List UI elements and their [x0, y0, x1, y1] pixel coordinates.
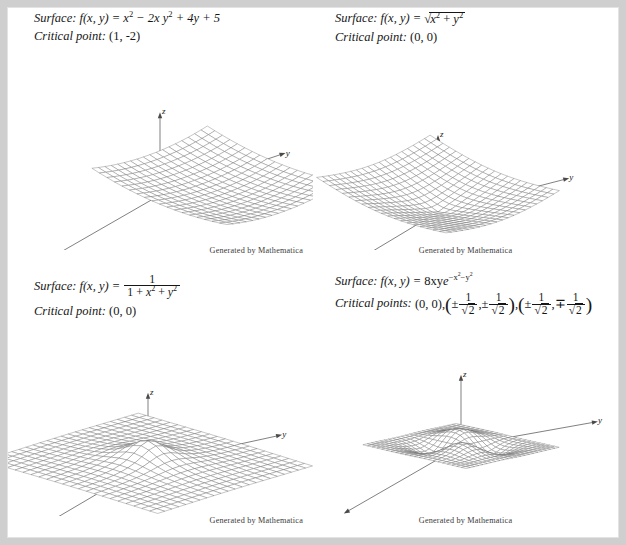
page-sheet: Surface: f(x, y) = x2 − 2x y2 + 4y + 5 C…: [8, 8, 618, 537]
critical-origin: (0, 0),: [415, 297, 445, 311]
term-plus4y: + 4y: [176, 11, 199, 25]
surface-label: Surface:: [34, 11, 76, 25]
surface-plot-cone: xyz: [313, 60, 618, 250]
surface-formula: f(x, y) = √x2 + y2: [380, 11, 465, 25]
figure-panel-paraboloid: Surface: f(x, y) = x2 − 2x y2 + 4y + 5 C…: [8, 8, 313, 272]
critical-value: (0, 0): [410, 30, 437, 44]
critical-line: Critical points: (0, 0),(±1√2,±1√2),(±1√…: [335, 292, 614, 316]
surface-label: Surface:: [335, 11, 377, 25]
critical-line: Critical point: (0, 0): [335, 31, 614, 44]
radical-group: √x2 + y2: [424, 12, 465, 26]
panel-header: Surface: f(x, y) = x2 − 2x y2 + 4y + 5 C…: [34, 12, 309, 47]
root-two: √2: [567, 304, 585, 317]
critical-line: Critical point: (1, -2): [34, 30, 309, 43]
fn-head: f(x, y) =: [380, 11, 421, 25]
surface-label: Surface:: [335, 274, 377, 288]
figure-panel-peaks: Surface: f(x, y) = 8xye−x2−y2 Critical p…: [313, 272, 618, 536]
coefficient: 8xy: [424, 274, 443, 288]
frac-one-over-root-two: 1√2: [532, 292, 550, 316]
fn-head: f(x, y) =: [79, 11, 120, 25]
panel-header: Surface: f(x, y) = 8xye−x2−y2 Critical p…: [335, 274, 614, 322]
plot-caption: Generated by Mathematica: [313, 516, 618, 525]
critical-label: Critical point:: [34, 29, 106, 43]
critical-label: Critical point:: [34, 304, 106, 318]
exp-term: e−x2−y2: [443, 274, 472, 288]
figure-grid: Surface: f(x, y) = x2 − 2x y2 + 4y + 5 C…: [8, 8, 618, 537]
surface-plot-paraboloid: xyz: [8, 60, 313, 250]
surface-formula: f(x, y) = x2 − 2x y2 + 4y + 5: [79, 11, 220, 25]
svg-text:z: z: [439, 129, 444, 139]
critical-value: (0, 0),(±1√2,±1√2),(±1√2,∓1√2): [415, 297, 592, 311]
svg-text:y: y: [568, 172, 573, 182]
svg-text:z: z: [462, 369, 467, 379]
svg-text:z: z: [161, 106, 166, 116]
surface-plot-bell: xyz: [8, 326, 313, 516]
surface-formula: f(x, y) = 1 1 + x2 + y2: [79, 279, 181, 293]
term-y2: y2: [163, 11, 173, 25]
frac-one-over-root-two: 1√2: [489, 292, 507, 316]
svg-text:y: y: [597, 415, 602, 425]
plot-caption: Generated by Mathematica: [8, 246, 313, 255]
surface-line: Surface: f(x, y) = x2 − 2x y2 + 4y + 5: [34, 12, 309, 25]
plot-caption: Generated by Mathematica: [8, 516, 313, 525]
frac-one-over-root-two: 1√2: [459, 292, 477, 316]
surface-line: Surface: f(x, y) = 8xye−x2−y2: [335, 274, 614, 287]
figure-panel-cone: Surface: f(x, y) = √x2 + y2 Critical poi…: [313, 8, 618, 272]
svg-text:y: y: [281, 429, 286, 439]
root-two: √2: [532, 304, 550, 317]
figure-panel-bell: Surface: f(x, y) = 1 1 + x2 + y2 Critica…: [8, 272, 313, 536]
surface-line: Surface: f(x, y) = 1 1 + x2 + y2: [34, 274, 309, 300]
frac-one-over-root-two: 1√2: [567, 292, 585, 316]
radicand: x2 + y2: [429, 12, 465, 26]
panel-header: Surface: f(x, y) = 1 1 + x2 + y2 Critica…: [34, 274, 309, 322]
surface-plot-peaks: xyz: [313, 326, 618, 516]
fn-head: f(x, y) =: [380, 274, 421, 288]
panel-header: Surface: f(x, y) = √x2 + y2 Critical poi…: [335, 12, 614, 48]
plot-caption: Generated by Mathematica: [313, 246, 618, 255]
surface-label: Surface:: [34, 279, 76, 293]
critical-line: Critical point: (0, 0): [34, 305, 309, 318]
term-x2: x2: [123, 11, 133, 25]
fraction-group: 1 1 + x2 + y2: [124, 273, 180, 299]
surface-formula: f(x, y) = 8xye−x2−y2: [380, 274, 472, 288]
critical-value: (0, 0): [109, 304, 136, 318]
fraction-denominator: 1 + x2 + y2: [124, 285, 180, 298]
exponent: −x2−y2: [449, 272, 473, 282]
critical-value: (1, -2): [109, 29, 140, 43]
critical-label: Critical point:: [335, 30, 407, 44]
fn-head: f(x, y) =: [79, 279, 120, 293]
critical-label: Critical points:: [335, 297, 412, 311]
svg-text:z: z: [149, 387, 154, 397]
root-two: √2: [459, 304, 477, 317]
surface-line: Surface: f(x, y) = √x2 + y2: [335, 12, 614, 26]
term-plus5: + 5: [202, 11, 220, 25]
root-two: √2: [489, 304, 507, 317]
svg-text:y: y: [285, 148, 290, 158]
term-minus2x: − 2x: [136, 11, 159, 25]
